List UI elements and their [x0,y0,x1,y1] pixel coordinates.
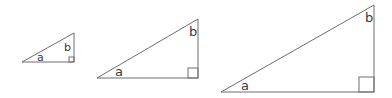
triangle-small: a b [22,33,74,64]
angle-label-b-small: b [64,41,71,54]
similar-triangles-diagram: a b a b a b [0,0,392,98]
right-angle-marker-small [69,57,74,62]
right-angle-marker-medium [188,68,198,78]
right-angle-marker-large [359,77,374,92]
triangle-medium-outline [97,19,198,78]
angle-label-a-small: a [37,51,44,64]
triangle-large: a b [221,5,374,93]
angle-label-a-medium: a [115,64,123,79]
angle-label-a-large: a [241,78,249,93]
angle-label-b-medium: b [189,24,197,39]
angle-label-b-large: b [365,10,373,25]
triangle-medium: a b [97,19,198,79]
